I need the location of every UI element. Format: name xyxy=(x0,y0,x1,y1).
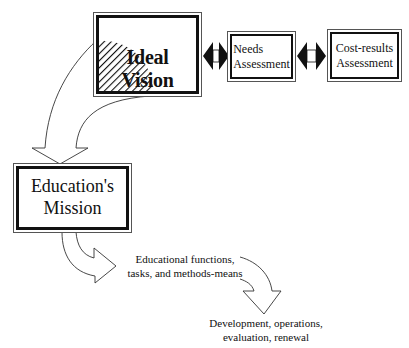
development-line2: evaluation, renewal xyxy=(196,330,336,344)
needs-assessment-line2: Assessment xyxy=(233,57,290,72)
needs-assessment-box: Needs Assessment xyxy=(227,31,296,82)
cost-results-line1: Cost-results xyxy=(336,41,393,56)
education-mission-line2: Mission xyxy=(31,198,114,220)
needs-assessment-line1: Needs xyxy=(233,42,290,57)
double-arrow-vision-needs xyxy=(203,42,229,70)
educational-functions-text: Educational functions, tasks, and method… xyxy=(120,252,250,281)
education-mission-line1: Education's xyxy=(31,176,114,198)
ideal-vision-label: Ideal Vision xyxy=(99,46,196,92)
education-mission-box: Education's Mission xyxy=(13,163,132,233)
development-text: Development, operations, evaluation, ren… xyxy=(196,316,336,345)
diagram-canvas: Ideal Vision Needs Assessment Cost-resul… xyxy=(0,0,409,348)
curved-arrow-mission-to-functions xyxy=(62,232,116,283)
double-arrow-needs-cost xyxy=(297,42,326,70)
functions-line1: Educational functions, xyxy=(120,252,250,266)
ideal-vision-box: Ideal Vision xyxy=(93,12,202,97)
cost-results-box: Cost-results Assessment xyxy=(327,29,402,82)
functions-line2: tasks, and methods-means xyxy=(120,266,250,280)
development-line1: Development, operations, xyxy=(196,316,336,330)
cost-results-line2: Assessment xyxy=(336,56,393,71)
